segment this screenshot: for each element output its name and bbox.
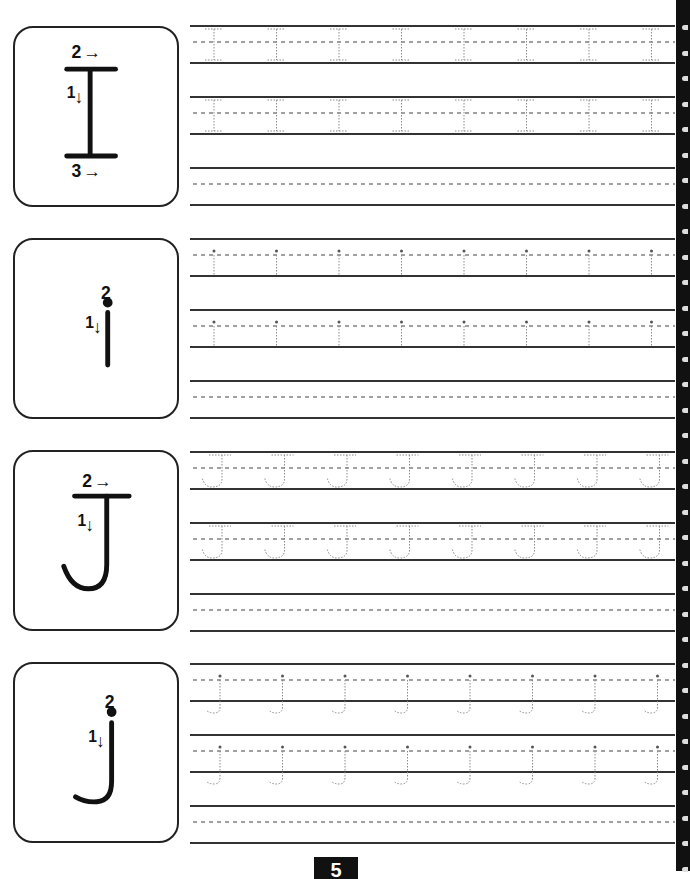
svg-text:2: 2 (72, 42, 82, 62)
tracing-glyph-J (515, 526, 544, 558)
binding-hole (682, 739, 688, 744)
binding-hole (682, 510, 688, 515)
binding-hole (682, 280, 688, 285)
tracing-glyph-J (515, 455, 544, 487)
letter-J-guide-icon: 2 → 1 ↓ (15, 452, 177, 629)
binding-hole (682, 357, 688, 362)
tracing-glyph-i (463, 250, 466, 277)
svg-text:→: → (83, 42, 101, 62)
tracing-glyph-J (265, 455, 294, 487)
tracing-glyph-J (577, 526, 606, 558)
page-number: 5 (314, 857, 358, 879)
tracing-glyph-I (580, 100, 598, 131)
binding-hole (682, 561, 688, 566)
binding-hole (682, 331, 688, 336)
svg-text:↓: ↓ (75, 87, 84, 107)
svg-text:→: → (83, 161, 101, 181)
binding-hole (682, 816, 688, 821)
binding-hole (682, 714, 688, 719)
writing-lines[interactable] (190, 446, 675, 636)
stroke-guide-lowercase-j: 2 1 ↓ (13, 662, 179, 843)
writing-lines[interactable] (190, 20, 675, 210)
binding-hole (682, 382, 688, 387)
tracing-glyph-i (400, 321, 403, 348)
binding-hole (682, 102, 688, 107)
tracing-glyph-J (452, 455, 481, 487)
tracing-glyph-I (330, 29, 348, 60)
binding-hole (682, 637, 688, 642)
practice-lines-I[interactable] (190, 20, 675, 210)
tracing-glyph-I (268, 100, 286, 131)
tracing-glyph-I (643, 100, 661, 131)
tracing-glyph-i (525, 321, 528, 348)
tracing-glyph-I (580, 29, 598, 60)
tracing-glyph-I (455, 29, 473, 60)
tracing-glyph-J (452, 526, 481, 558)
tracing-glyph-J (202, 526, 231, 558)
binding-hole (682, 612, 688, 617)
binding-hole (682, 867, 688, 872)
tracing-glyph-i (275, 321, 278, 348)
tracing-glyph-J (327, 526, 356, 558)
practice-lines-i[interactable] (190, 233, 675, 423)
svg-text:2: 2 (82, 471, 92, 491)
tracing-glyph-J (202, 455, 231, 487)
svg-text:↓: ↓ (93, 317, 102, 337)
letter-i-guide-icon: 2 1 ↓ (15, 240, 177, 417)
tracing-glyph-i (275, 250, 278, 277)
tracing-glyph-I (455, 100, 473, 131)
binding-hole (682, 306, 688, 311)
svg-text:↓: ↓ (85, 515, 94, 535)
tracing-glyph-J (640, 455, 669, 487)
binding-hole (682, 586, 688, 591)
tracing-glyph-J (327, 455, 356, 487)
binding-hole (682, 127, 688, 132)
letter-I-guide-icon: 2 → 1 ↓ 3 → (15, 28, 177, 205)
tracing-glyph-i (213, 250, 216, 277)
binding-hole (682, 25, 688, 30)
binding-hole (682, 484, 688, 489)
stroke-guide-lowercase-i: 2 1 ↓ (13, 238, 179, 419)
binding-hole (682, 51, 688, 56)
binding-hole (682, 535, 688, 540)
binding-hole (682, 459, 688, 464)
tracing-glyph-i (588, 250, 591, 277)
tracing-glyph-I (268, 29, 286, 60)
letter-j-guide-icon: 2 1 ↓ (15, 664, 177, 841)
tracing-glyph-i (400, 250, 403, 277)
practice-lines-j[interactable] (190, 658, 675, 848)
tracing-glyph-I (518, 100, 536, 131)
binding-hole (682, 663, 688, 668)
tracing-glyph-I (643, 29, 661, 60)
tracing-glyph-I (393, 100, 411, 131)
tracing-glyph-J (390, 526, 419, 558)
binding-hole (682, 76, 688, 81)
tracing-glyph-i (338, 250, 341, 277)
tracing-glyph-J (265, 526, 294, 558)
svg-text:↓: ↓ (96, 731, 105, 751)
svg-text:→: → (94, 471, 112, 491)
binding-hole (682, 688, 688, 693)
binding-hole (682, 153, 688, 158)
writing-lines[interactable] (190, 658, 675, 848)
tracing-glyph-J (577, 455, 606, 487)
binding-hole (682, 841, 688, 846)
stroke-guide-uppercase-I: 2 → 1 ↓ 3 → (13, 26, 179, 207)
tracing-glyph-I (330, 100, 348, 131)
binding-hole (682, 433, 688, 438)
binding-hole (682, 204, 688, 209)
spiral-binding-edge (676, 0, 690, 871)
practice-lines-J[interactable] (190, 446, 675, 636)
tracing-glyph-I (205, 100, 223, 131)
tracing-glyph-J (640, 526, 669, 558)
tracing-glyph-i (338, 321, 341, 348)
binding-hole (682, 229, 688, 234)
tracing-glyph-I (205, 29, 223, 60)
tracing-glyph-I (518, 29, 536, 60)
writing-lines[interactable] (190, 233, 675, 423)
tracing-glyph-i (650, 250, 653, 277)
svg-text:3: 3 (72, 161, 82, 181)
binding-hole (682, 765, 688, 770)
tracing-glyph-i (588, 321, 591, 348)
binding-hole (682, 255, 688, 260)
